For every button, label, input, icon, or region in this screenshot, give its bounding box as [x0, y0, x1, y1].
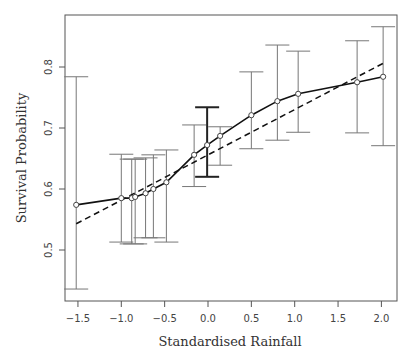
- data-point-marker: [296, 91, 301, 96]
- error-bar: [345, 41, 369, 133]
- error-bar: [208, 127, 232, 165]
- x-tick-label: 1.5: [330, 313, 346, 324]
- data-point-marker: [74, 202, 79, 207]
- data-points: [74, 74, 386, 207]
- data-point-marker: [249, 113, 254, 118]
- survival-polyline: [76, 77, 383, 205]
- x-tick-label: 0.0: [200, 313, 216, 324]
- y-tick-label: 0.8: [43, 59, 54, 75]
- data-point-marker: [119, 196, 124, 201]
- survival-line: [76, 77, 383, 205]
- data-point-marker: [151, 186, 156, 191]
- error-bar: [371, 27, 395, 146]
- plot-frame: [65, 15, 397, 301]
- y-tick-label: 0.5: [43, 242, 54, 258]
- data-point-marker: [205, 142, 210, 147]
- data-point-marker: [164, 180, 169, 185]
- y-axis-title: Survival Probability: [14, 92, 29, 223]
- survival-vs-rainfall-chart: −1.5−1.0−0.50.00.51.01.52.0 0.50.60.70.8…: [0, 0, 414, 360]
- y-tick-label: 0.6: [43, 181, 54, 197]
- error-bar: [123, 159, 147, 244]
- error-bars: [64, 27, 395, 289]
- data-point-marker: [355, 80, 360, 85]
- data-point-marker: [192, 152, 197, 157]
- error-bar: [265, 45, 289, 140]
- x-axis-title: Standardised Rainfall: [158, 334, 301, 349]
- data-point-marker: [133, 194, 138, 199]
- x-tick-label: −1.5: [66, 313, 90, 324]
- x-tick-label: 2.0: [373, 313, 389, 324]
- error-bar: [154, 150, 178, 242]
- error-bar: [64, 77, 88, 289]
- x-tick-label: 0.5: [243, 313, 259, 324]
- data-point-marker: [381, 74, 386, 79]
- error-bar: [141, 155, 165, 238]
- y-tick-label: 0.7: [43, 120, 54, 136]
- x-tick-label: −0.5: [153, 313, 177, 324]
- data-point-marker: [275, 99, 280, 104]
- error-bar: [120, 159, 144, 244]
- x-tick-label: −1.0: [109, 313, 133, 324]
- x-tick-label: 1.0: [287, 313, 303, 324]
- data-point-marker: [143, 191, 148, 196]
- data-point-marker: [218, 133, 223, 138]
- x-axis: −1.5−1.0−0.50.00.51.01.52.0: [66, 301, 390, 324]
- y-axis: 0.50.60.70.8: [43, 59, 65, 258]
